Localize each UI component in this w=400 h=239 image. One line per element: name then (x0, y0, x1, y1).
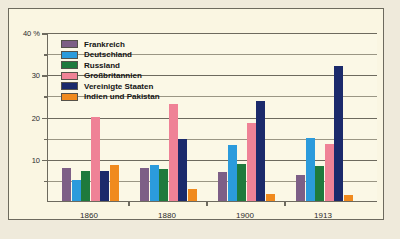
bar (169, 104, 178, 201)
legend-item: Großbritannien (61, 71, 160, 82)
legend-item: Frankreich (61, 39, 160, 50)
bar (315, 166, 324, 201)
bar (296, 175, 305, 201)
bar (247, 123, 256, 201)
legend-color-swatch (61, 40, 78, 48)
bar (344, 195, 353, 201)
bar (237, 164, 246, 201)
legend-item: Indien und Pakistan (61, 92, 160, 103)
bar (159, 169, 168, 201)
x-axis-tick (128, 201, 130, 206)
x-axis-label: 1880 (158, 211, 176, 220)
bar (150, 165, 159, 201)
bar (140, 168, 149, 201)
bar (100, 171, 109, 201)
y-axis-tick-minor (44, 181, 48, 183)
y-axis-tick-minor (44, 139, 48, 141)
bar (266, 194, 275, 201)
bar (178, 139, 187, 201)
y-axis-tick (42, 118, 48, 120)
y-axis-label: 40 % (23, 29, 40, 38)
y-axis-tick (42, 75, 48, 77)
bar (334, 66, 343, 201)
bar (81, 171, 90, 201)
bar (72, 180, 81, 201)
bar (62, 168, 71, 201)
y-axis-tick-minor (44, 96, 48, 98)
legend-item-label: Russland (84, 61, 120, 70)
legend-color-swatch (61, 61, 78, 69)
legend-item: Russland (61, 60, 160, 71)
bar (325, 144, 334, 201)
x-axis-tick (206, 201, 208, 206)
legend-item: Deutschland (61, 50, 160, 61)
bar (228, 145, 237, 201)
y-axis-label: 30 (32, 71, 40, 80)
x-axis-label: 1900 (236, 211, 254, 220)
legend-item-label: Indien und Pakistan (84, 92, 160, 101)
legend-item-label: Frankreich (84, 40, 125, 49)
legend-color-swatch (61, 72, 78, 80)
x-axis-label: 1860 (80, 211, 98, 220)
y-axis-label: 20 (32, 113, 40, 122)
bar-group (296, 33, 354, 201)
bar (256, 101, 265, 201)
legend-color-swatch (61, 51, 78, 59)
legend-color-swatch (61, 82, 78, 90)
y-axis-tick (42, 160, 48, 162)
legend-item-label: Großbritannien (84, 71, 142, 80)
legend-item-label: Deutschland (84, 50, 132, 59)
bar (218, 172, 227, 201)
chart-legend: FrankreichDeutschlandRusslandGroßbritann… (61, 39, 160, 102)
bar (110, 165, 119, 201)
legend-item-label: Vereinigte Staaten (84, 82, 153, 91)
bar (188, 189, 197, 201)
x-axis-label: 1913 (314, 211, 332, 220)
x-axis-tick (284, 201, 286, 206)
y-axis-label: 10 (32, 155, 40, 164)
y-axis-tick-minor (44, 54, 48, 56)
legend-color-swatch (61, 93, 78, 101)
bar (91, 117, 100, 201)
bar (306, 138, 315, 201)
chart-frame: 10203040 % 1860188019001913 FrankreichDe… (8, 8, 384, 220)
bar-group (218, 33, 276, 201)
legend-item: Vereinigte Staaten (61, 81, 160, 92)
y-axis-tick (42, 33, 48, 35)
